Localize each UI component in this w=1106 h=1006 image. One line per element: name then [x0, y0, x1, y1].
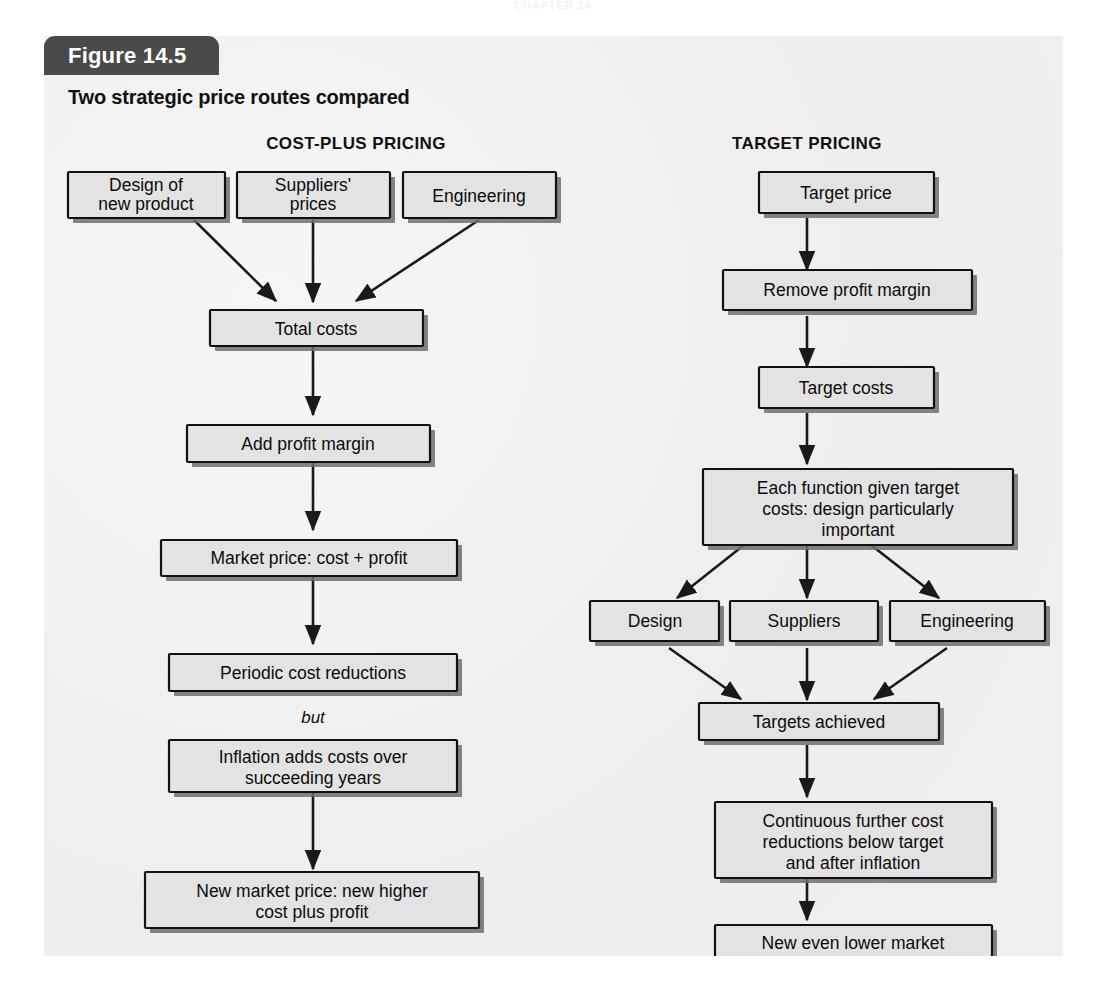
column-heading-cost-plus: COST-PLUS PRICING [266, 134, 446, 153]
node-label-line1: Each function given target [757, 478, 959, 498]
node-engineering-left: Engineering [403, 172, 561, 223]
node-label: Add profit margin [241, 434, 374, 454]
node-label-line2: costs: design particularly [762, 499, 954, 519]
figure-page: CHAPTER 14 Figure 14.5 Two strategic pri… [0, 0, 1106, 1006]
node-label: Market price: cost + profit [211, 548, 408, 568]
node-label-line2: cost plus profit [256, 902, 369, 922]
node-label-line2: price [834, 954, 872, 956]
edge-design-to-total [194, 220, 276, 301]
node-label-line1: New even lower market [762, 933, 945, 953]
node-label-line2: new product [98, 194, 193, 214]
node-label-line1: New market price: new higher [196, 881, 428, 901]
node-suppliers-prices: Suppliers' prices [237, 172, 395, 223]
edge-engineering-to-total [356, 220, 479, 301]
figure-panel: Figure 14.5 Two strategic price routes c… [44, 36, 1063, 956]
node-label-line2: succeeding years [245, 768, 381, 788]
node-label: Engineering [920, 611, 1013, 631]
node-new-even-lower-market-price: New even lower market price [715, 925, 997, 956]
node-label: Targets achieved [753, 712, 885, 732]
node-market-price: Market price: cost + profit [161, 540, 462, 581]
node-total-costs: Total costs [210, 310, 428, 351]
node-label: Engineering [432, 186, 525, 206]
node-periodic-cost-reductions: Periodic cost reductions [169, 654, 462, 696]
column-heading-target: TARGET PRICING [732, 134, 882, 153]
node-label: Suppliers [768, 611, 841, 631]
node-label: Target price [800, 183, 891, 203]
node-remove-profit-margin: Remove profit margin [723, 270, 977, 315]
node-label-line1: Continuous further cost [763, 811, 944, 831]
node-each-function-given-target-costs: Each function given target costs: design… [703, 469, 1018, 550]
edge-eachfunction-to-design [677, 545, 744, 598]
edge-design-to-targets [669, 648, 741, 699]
edge-eachfunction-to-engineering [871, 545, 939, 598]
node-label: Total costs [275, 319, 358, 339]
node-target-costs: Target costs [759, 367, 939, 413]
node-targets-achieved: Targets achieved [699, 703, 944, 745]
node-design-of-new-product: Design of new product [68, 172, 230, 223]
node-label-line1: Inflation adds costs over [219, 747, 408, 767]
node-label: Design [628, 611, 682, 631]
node-inflation-adds-costs: Inflation adds costs over succeeding yea… [169, 740, 462, 797]
node-suppliers-right: Suppliers [730, 601, 883, 646]
flowchart-svg: COST-PLUS PRICING TARGET PRICING Design … [44, 36, 1063, 956]
node-label-line2: reductions below target [763, 832, 944, 852]
annotation-but: but [301, 708, 326, 727]
node-label-line3: important [822, 520, 895, 540]
node-add-profit-margin: Add profit margin [187, 425, 435, 467]
node-new-market-price: New market price: new higher cost plus p… [145, 872, 484, 933]
node-label-line3: and after inflation [786, 853, 920, 873]
node-label-line1: Suppliers' [275, 175, 351, 195]
node-label: Target costs [799, 378, 894, 398]
node-design-right: Design [590, 601, 724, 646]
node-label-line2: prices [290, 194, 337, 214]
edge-engineering-to-targets [874, 648, 947, 699]
node-label-line1: Design of [109, 175, 183, 195]
node-target-price: Target price [759, 172, 939, 218]
running-head: CHAPTER 14 [0, 0, 1106, 10]
node-label: Periodic cost reductions [220, 663, 406, 683]
node-engineering-right: Engineering [890, 601, 1050, 646]
node-label: Remove profit margin [763, 280, 930, 300]
node-continuous-further-cost-reductions: Continuous further cost reductions below… [715, 802, 997, 883]
